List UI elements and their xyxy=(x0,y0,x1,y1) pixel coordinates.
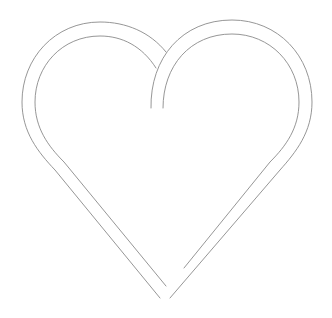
heart-canvas xyxy=(0,0,332,318)
heart-right-inner-line xyxy=(163,34,299,268)
heart-right-outer-line xyxy=(151,20,312,298)
heart-icon xyxy=(0,0,332,318)
heart-left-inner-line xyxy=(35,36,166,286)
heart-left-outer-line xyxy=(22,22,166,298)
